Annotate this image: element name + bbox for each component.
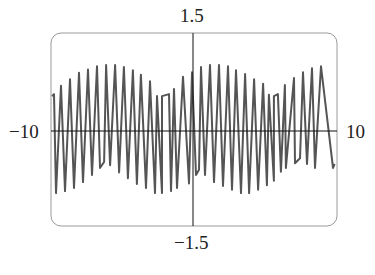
x-min-label: −10	[9, 122, 39, 141]
y-min-label: −1.5	[174, 233, 208, 252]
y-max-label: 1.5	[180, 6, 204, 25]
x-max-label: 10	[346, 122, 365, 141]
